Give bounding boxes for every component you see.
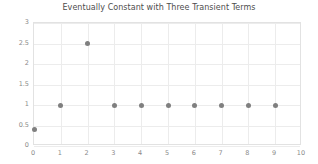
gridline-horizontal (34, 126, 300, 127)
data-point (246, 103, 251, 108)
gridline-vertical (195, 23, 196, 144)
gridline-vertical (114, 23, 115, 144)
data-point (166, 103, 171, 108)
gridline-vertical (168, 23, 169, 144)
gridline-vertical (222, 23, 223, 144)
gridline-vertical (275, 23, 276, 144)
y-axis-tick-label: 3 (1, 18, 29, 26)
x-axis-tick-label: 2 (75, 149, 99, 157)
data-point (58, 103, 63, 108)
y-axis-tick-label: 2 (1, 59, 29, 67)
data-point (273, 103, 278, 108)
x-axis-tick-label: 5 (155, 149, 179, 157)
x-axis-tick-label: 1 (48, 149, 72, 157)
x-axis-tick-label: 3 (101, 149, 125, 157)
plot-area (33, 22, 301, 145)
x-axis-tick-label: 7 (209, 149, 233, 157)
gridline-vertical (248, 23, 249, 144)
data-point (192, 103, 197, 108)
gridline-horizontal (34, 85, 300, 86)
x-axis-tick-label: 10 (289, 149, 313, 157)
gridline-vertical (141, 23, 142, 144)
x-axis-tick-label: 6 (182, 149, 206, 157)
data-point (32, 127, 37, 132)
y-axis-tick-label: 0.5 (1, 121, 29, 129)
data-point (139, 103, 144, 108)
gridline-horizontal (34, 146, 300, 147)
data-point (85, 41, 90, 46)
gridline-vertical (61, 23, 62, 144)
y-axis-tick-label: 0 (1, 141, 29, 149)
y-axis-tick-label: 1.5 (1, 80, 29, 88)
x-axis-tick-label: 4 (128, 149, 152, 157)
gridline-horizontal (34, 23, 300, 24)
x-axis-tick-label: 8 (235, 149, 259, 157)
chart-title: Eventually Constant with Three Transient… (0, 3, 318, 12)
y-axis-tick-label: 2.5 (1, 39, 29, 47)
data-point (112, 103, 117, 108)
x-axis-tick-label: 9 (262, 149, 286, 157)
y-axis-tick-label: 1 (1, 100, 29, 108)
x-axis-tick-label: 0 (21, 149, 45, 157)
chart-figure: Eventually Constant with Three Transient… (0, 0, 318, 164)
gridline-horizontal (34, 44, 300, 45)
data-point (219, 103, 224, 108)
gridline-horizontal (34, 64, 300, 65)
